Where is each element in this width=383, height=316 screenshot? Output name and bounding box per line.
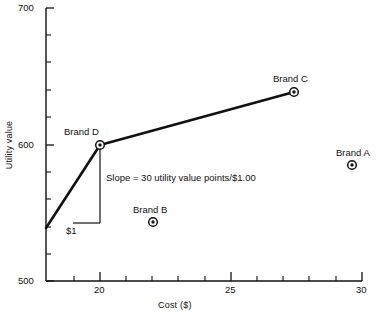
y-tick-label-700: 700: [18, 2, 34, 13]
utility-vs-cost-chart: Utility value Cost ($) 700 600 500 20 25…: [0, 0, 383, 316]
data-point-brand-b[interactable]: [149, 218, 158, 227]
x-tick-label-20: 20: [94, 284, 105, 295]
x-axis-title: Cost ($): [158, 300, 192, 310]
y-axis-title: Utility value: [4, 114, 14, 176]
x-tick-label-25: 25: [225, 284, 236, 295]
slope-triangle: [73, 147, 100, 223]
annotation-slope: Slope = 30 utility value points/$1.00: [106, 172, 256, 183]
point-label-brand-c: Brand C: [273, 73, 308, 84]
efficient-frontier-line: [46, 92, 294, 228]
point-label-brand-b: Brand B: [133, 204, 167, 215]
data-point-brand-c[interactable]: [290, 88, 299, 97]
y-axis-major-ticks: [46, 8, 54, 281]
y-tick-label-600: 600: [18, 139, 34, 150]
data-point-brand-a[interactable]: [348, 161, 357, 170]
point-label-brand-d: Brand D: [64, 126, 99, 137]
x-axis-major-ticks: [100, 272, 362, 281]
x-axis-minor-ticks: [74, 276, 336, 281]
annotation-dollar-one: $1: [66, 225, 77, 236]
data-point-brand-d[interactable]: [96, 141, 105, 150]
point-label-brand-a: Brand A: [336, 147, 370, 158]
y-tick-label-500: 500: [18, 275, 34, 286]
chart-plot-area: [0, 0, 383, 316]
x-tick-label-30: 30: [356, 284, 367, 295]
